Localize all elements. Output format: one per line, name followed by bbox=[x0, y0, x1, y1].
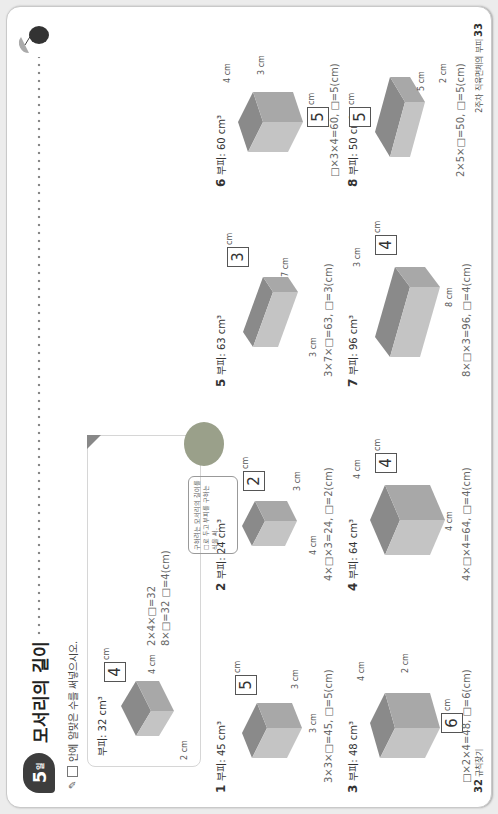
problem-1: 1부피: 45 cm³ 5 cm 3 cm 3 cm 3×3×□=45, □=5… bbox=[213, 643, 343, 793]
lesson-suffix: 일 bbox=[34, 763, 45, 770]
dim-label: 4 cm bbox=[353, 459, 362, 479]
footer-right-label: 2주차 직육면체의 부피 bbox=[475, 39, 484, 112]
instruction-text: 안에 알맞은 수를 써넣으시오. bbox=[65, 641, 80, 762]
footer-left: 32 규칙찾기 bbox=[473, 749, 484, 793]
problem-8: 8부피: 50 cm³ 5 cm 5 cm 2 cm 2×5×□=50, □=5… bbox=[345, 17, 475, 187]
example-box: 부피: 32 cm³ 4 cm 4 cm 2 cm 2×4×□=32 8×□=3… bbox=[87, 435, 201, 767]
dim-label: 8 cm bbox=[445, 287, 454, 307]
problem-volume: 부피: 45 cm³ bbox=[216, 721, 227, 781]
lesson-number: 5 bbox=[29, 771, 50, 784]
dim-label: cm bbox=[225, 233, 234, 245]
answer-box: 3 bbox=[227, 247, 249, 267]
dim-label: cm bbox=[373, 439, 382, 451]
workbook-page: 5일 모서리의 길이 ✎ 안에 알맞은 수를 써넣으시오. 부피: 32 cm³… bbox=[0, 0, 498, 814]
problem-6: 6부피: 60 cm³ 5 cm 4 cm 3 cm □×3×4=60, □=5… bbox=[213, 17, 343, 187]
answer-box: 4 bbox=[375, 453, 397, 473]
dim-label: 3 cm bbox=[309, 713, 318, 733]
cuboid-figure bbox=[233, 82, 313, 167]
dim-label: 3 cm bbox=[293, 471, 302, 491]
cuboid-figure bbox=[365, 257, 445, 367]
work-line: 8×□=32 □=4(cm) bbox=[160, 550, 171, 646]
example-volume: 부피: 32 cm³ bbox=[94, 696, 109, 756]
dim-label: 3 cm bbox=[309, 337, 318, 357]
dim-label: cm bbox=[241, 457, 250, 469]
cuboid-figure bbox=[365, 475, 450, 565]
equation: □×3×4=60, □=5(cm) bbox=[329, 63, 340, 177]
problem-number: 8 bbox=[346, 179, 360, 187]
problem-4: 4부피: 64 cm³ 4 cm 4 cm 4 cm 4×□×4=64, □=4… bbox=[345, 421, 475, 591]
dim-label: 4 cm bbox=[309, 535, 318, 555]
problem-5: 5부피: 63 cm³ 3 cm 7 cm 3 cm 3×7×□=63, □=3… bbox=[213, 217, 343, 387]
footer-left-label: 규칙찾기 bbox=[475, 749, 484, 777]
dim-label: cm bbox=[347, 93, 356, 105]
page-number-right: 33 bbox=[473, 23, 484, 37]
problem-number: 3 bbox=[346, 785, 360, 793]
sheet: 5일 모서리의 길이 ✎ 안에 알맞은 수를 써넣으시오. 부피: 32 cm³… bbox=[6, 6, 492, 808]
answer-box: 4 bbox=[375, 235, 397, 255]
corner-fold bbox=[87, 435, 101, 449]
cuboid-figure bbox=[237, 693, 307, 773]
dim-label: 4 cm bbox=[357, 661, 366, 681]
problem-number: 6 bbox=[214, 179, 228, 187]
problem-volume: 부피: 60 cm³ bbox=[216, 115, 227, 175]
problem-number: 4 bbox=[346, 583, 360, 591]
problem-number: 2 bbox=[214, 583, 228, 591]
cuboid-figure bbox=[116, 676, 176, 746]
dim-label: 3 cm bbox=[257, 55, 266, 75]
dotted-divider bbox=[37, 57, 41, 637]
umbrella-mascot-icon bbox=[17, 25, 51, 55]
answer-box: 5 bbox=[349, 107, 371, 127]
dim-label: 2 cm bbox=[180, 740, 189, 760]
problem-7: 7부피: 96 cm³ 4 cm 3 cm 8 cm 8×□×3=96, □=4… bbox=[345, 207, 475, 387]
dim-label: 4 cm bbox=[445, 511, 454, 531]
problem-3: 3부피: 48 cm³ 6 cm 4 cm 2 cm □×2×4=48, □=6… bbox=[345, 613, 475, 793]
problem-volume: 부피: 48 cm³ bbox=[348, 721, 359, 781]
equation: 4×□×4=64, □=4(cm) bbox=[461, 467, 472, 581]
dim-label: 7 cm bbox=[281, 257, 290, 277]
dim-label: cm bbox=[102, 648, 111, 660]
problem-volume: 부피: 63 cm³ bbox=[216, 315, 227, 375]
dim-label: 3 cm bbox=[291, 669, 300, 689]
cuboid-figure bbox=[233, 267, 303, 357]
problem-number: 1 bbox=[214, 785, 228, 793]
equation: 3×7×□=63, □=3(cm) bbox=[323, 263, 334, 377]
dim-label: cm bbox=[307, 93, 316, 105]
equation: 2×5×□=50, □=5(cm) bbox=[455, 63, 466, 177]
answer-box: 5 bbox=[307, 107, 329, 127]
equation: 8×□×3=96, □=4(cm) bbox=[461, 263, 472, 377]
dim-label: cm bbox=[233, 661, 242, 673]
dim-label: cm bbox=[373, 221, 382, 233]
cuboid-figure bbox=[237, 491, 307, 561]
blank-box-icon bbox=[67, 766, 78, 777]
problem-2: 2부피: 24 cm³ 2 cm 3 cm 4 cm 4×□×3=24, □=2… bbox=[213, 441, 343, 591]
footer-right: 2주차 직육면체의 부피 33 bbox=[473, 23, 484, 113]
equation: 3×3×□=45, □=5(cm) bbox=[323, 669, 334, 783]
lesson-badge: 5일 bbox=[23, 753, 55, 793]
instruction: ✎ 안에 알맞은 수를 써넣으시오. bbox=[65, 641, 80, 789]
dim-label: 4 cm bbox=[223, 63, 232, 83]
pencil-icon: ✎ bbox=[67, 781, 78, 789]
page-number-left: 32 bbox=[473, 779, 484, 793]
problem-number: 5 bbox=[214, 379, 228, 387]
example-answer-box: 4 bbox=[104, 662, 126, 682]
problem-number: 7 bbox=[346, 379, 360, 387]
dim-label: cm bbox=[443, 699, 452, 711]
page-title: 모서리의 길이 bbox=[27, 641, 52, 743]
answer-box: 6 bbox=[441, 713, 463, 733]
problem-volume: 부피: 64 cm³ bbox=[348, 519, 359, 579]
problem-9 bbox=[477, 207, 487, 387]
equation: □×2×4=48, □=6(cm) bbox=[461, 669, 472, 783]
cuboid-figure bbox=[365, 683, 445, 773]
dim-label: 2 cm bbox=[401, 653, 410, 673]
problem-volume: 부피: 24 cm³ bbox=[216, 519, 227, 579]
dim-label: 3 cm bbox=[353, 247, 362, 267]
equation: 4×□×3=24, □=2(cm) bbox=[323, 467, 334, 581]
dim-label: 2 cm bbox=[439, 63, 448, 83]
answer-box: 5 bbox=[235, 675, 257, 695]
dim-label: 4 cm bbox=[148, 654, 157, 674]
dim-label: 5 cm bbox=[417, 71, 426, 91]
problem-volume: 부피: 96 cm³ bbox=[348, 315, 359, 375]
work-line: 2×4×□=32 bbox=[146, 586, 157, 646]
answer-box: 2 bbox=[243, 471, 265, 491]
